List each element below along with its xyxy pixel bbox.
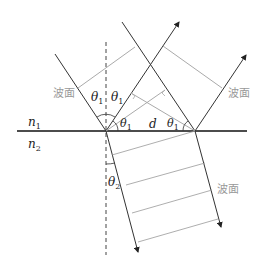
incident-wavefront (78, 47, 135, 88)
theta1-a-label: θ1 (120, 118, 132, 132)
theta2-label: θ2 (108, 176, 120, 191)
medium2-label: n2 (28, 138, 41, 153)
diagram-canvas (0, 0, 264, 269)
theta1-b-label: θ1 (167, 118, 179, 132)
wavefront-label-incident: 波面 (53, 88, 75, 99)
refracted-wavefront (112, 131, 195, 155)
angle-arc-refracted (106, 163, 115, 164)
refracted-ray-b (195, 131, 221, 227)
incident-ray-b (122, 22, 195, 131)
refracted-wavefront (132, 190, 212, 213)
reflected-wavefront (131, 93, 195, 131)
theta1-left-label: θ1 (91, 91, 103, 106)
wavefront-label-reflected: 波面 (228, 88, 250, 99)
distance-d-label: d (149, 118, 157, 130)
refraction-diagram: n1 n2 θ1 θ1 θ1 θ1 d θ2 波面 波面 波面 (0, 0, 264, 269)
theta1-right-label: θ1 (111, 91, 123, 106)
refracted-wavefront (138, 219, 218, 242)
refracted-wavefront (126, 163, 205, 185)
reflected-wavefront (163, 46, 222, 88)
wavefront-label-refracted: 波面 (217, 184, 239, 195)
medium1-label: n1 (28, 116, 41, 131)
